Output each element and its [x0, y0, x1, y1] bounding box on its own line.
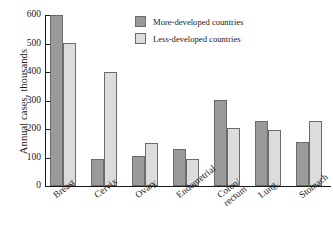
y-axis-tick-label: 600: [27, 9, 41, 19]
bar-group: [91, 15, 117, 186]
bar: [255, 121, 268, 186]
y-axis-tick-label: 300: [27, 95, 41, 105]
y-axis-tick-mark: [46, 72, 50, 73]
y-axis-tick-mark: [46, 101, 50, 102]
bar-group: [50, 15, 76, 186]
bar-chart: Annual cases, thousands 0100200300400500…: [0, 0, 333, 245]
y-axis-tick-label: 200: [27, 123, 41, 133]
legend-label-less-developed: Less-developed countries: [153, 34, 241, 44]
y-axis-tick-mark: [46, 186, 50, 187]
bar: [63, 43, 76, 186]
bar-group: [296, 15, 322, 186]
bar: [268, 130, 281, 186]
bar: [132, 156, 145, 186]
legend-item-more-developed: More-developed countries: [135, 14, 243, 29]
bar: [296, 142, 309, 186]
y-axis-tick-label: 100: [27, 152, 41, 162]
legend-item-less-developed: Less-developed countries: [135, 31, 243, 46]
y-axis-tick-mark: [46, 129, 50, 130]
bar: [91, 159, 104, 186]
y-axis-tick-mark: [46, 44, 50, 45]
bar: [50, 15, 63, 186]
y-axis-tick-mark: [46, 158, 50, 159]
bar-group: [255, 15, 281, 186]
chart-legend: More-developed countries Less-developed …: [135, 14, 243, 48]
y-axis-tick-label: 0: [36, 180, 41, 190]
bar: [173, 149, 186, 186]
y-axis-tick-label: 400: [27, 66, 41, 76]
y-axis-tick-label: 500: [27, 38, 41, 48]
legend-swatch-less-developed: [135, 33, 146, 44]
y-axis-tick-mark: [46, 15, 50, 16]
legend-swatch-more-developed: [135, 16, 146, 27]
legend-label-more-developed: More-developed countries: [153, 17, 243, 27]
bar: [104, 72, 117, 186]
